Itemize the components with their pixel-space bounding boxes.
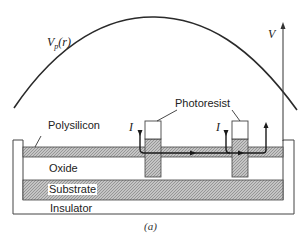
photoresist-left <box>145 121 161 139</box>
figure-caption: (a) <box>144 221 157 232</box>
via-left <box>145 139 161 177</box>
potential-curve-label: Vp(r) <box>47 36 71 51</box>
photoresist-right <box>232 121 248 139</box>
current-arrow-down-right <box>224 130 229 136</box>
current-label-right: I <box>216 121 220 133</box>
oxide-label: Oxide <box>49 163 78 174</box>
current-label-left: I <box>129 121 133 133</box>
cross-section-diagram <box>0 0 302 233</box>
current-arrow-up <box>264 122 269 128</box>
insulator-label: Insulator <box>50 203 92 214</box>
photoresist-label: Photoresist <box>175 98 230 109</box>
polysilicon-label: Polysilicon <box>48 120 100 131</box>
current-arrow-down-left <box>138 130 143 136</box>
v-axis-label: V <box>268 28 275 40</box>
substrate-label: Substrate <box>48 184 97 195</box>
potential-curve <box>14 17 297 110</box>
via-right <box>232 139 248 177</box>
v-axis-arrow <box>281 22 286 141</box>
